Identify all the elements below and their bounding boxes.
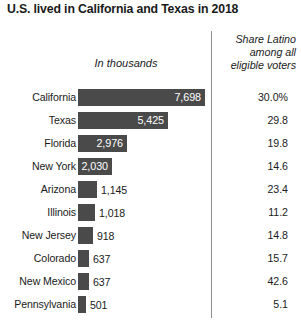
share-column-header: Share Latino among all eligible voters [216,33,296,73]
table-row: New Jersey91814.8 [0,226,301,249]
row-share-value: 19.8 [214,137,288,149]
row-category-label: Pennsylvania [0,298,76,310]
bar-value-label: 637 [93,276,110,288]
share-header-line-2: among all [216,46,296,59]
row-category-label: New York [0,160,76,172]
bar-value-label: 1,018 [99,207,125,219]
row-category-label: California [0,91,76,103]
bar [78,227,93,244]
bar [78,204,95,221]
row-share-value: 14.8 [214,229,288,241]
table-row: Pennsylvania5015.1 [0,295,301,318]
bars-column-header: In thousands [62,57,190,70]
row-category-label: Florida [0,137,76,149]
table-row: Florida2,97619.8 [0,134,301,157]
row-share-value: 42.6 [214,275,288,287]
share-header-line-3: eligible voters [216,59,296,72]
bar [78,181,97,198]
row-share-value: 30.0% [214,91,288,103]
bar [78,250,89,267]
table-row: Arizona1,14523.4 [0,180,301,203]
chart-rows: California7,69830.0%Texas5,42529.8Florid… [0,88,301,318]
bar-value-label: 501 [90,299,107,311]
row-category-label: New Mexico [0,275,76,287]
bar-value-label: 1,145 [101,184,127,196]
row-share-value: 11.2 [214,206,288,218]
bar-value-label: 7,698 [78,91,201,103]
share-header-line-1: Share Latino [216,33,296,46]
table-row: Illinois1,01811.2 [0,203,301,226]
bar [78,296,86,313]
bar-value-label: 2,030 [78,160,108,172]
bar [78,273,89,290]
row-category-label: New Jersey [0,229,76,241]
row-share-value: 15.7 [214,252,288,264]
table-row: New York2,03014.6 [0,157,301,180]
bar-value-label: 637 [93,253,110,265]
row-share-value: 29.8 [214,114,288,126]
row-category-label: Arizona [0,183,76,195]
table-row: Colorado63715.7 [0,249,301,272]
row-share-value: 23.4 [214,183,288,195]
bar-value-label: 2,976 [78,137,123,149]
row-category-label: Colorado [0,252,76,264]
table-row: Texas5,42529.8 [0,111,301,134]
row-share-value: 5.1 [214,298,288,310]
chart-container: U.S. lived in California and Texas in 20… [0,0,301,332]
bar-value-label: 918 [97,230,114,242]
bar-value-label: 5,425 [78,114,164,126]
page-title: U.S. lived in California and Texas in 20… [7,2,295,16]
row-category-label: Illinois [0,206,76,218]
row-share-value: 14.6 [214,160,288,172]
table-row: California7,69830.0% [0,88,301,111]
table-row: New Mexico63742.6 [0,272,301,295]
row-category-label: Texas [0,114,76,126]
